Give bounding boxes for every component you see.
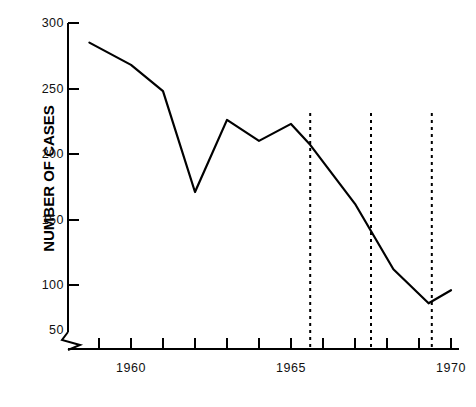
x-tick-group xyxy=(99,338,451,349)
chart-figure: NUMBER OF CASES 300 250 200 150 100 50 1… xyxy=(0,0,476,407)
chart-plot-area xyxy=(0,0,476,407)
axis-break-symbol xyxy=(62,332,80,350)
data-line-number-of-cases xyxy=(89,43,451,304)
